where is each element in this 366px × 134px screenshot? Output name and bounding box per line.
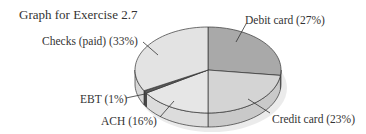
label-debit-card: Debit card (27%) [245, 15, 325, 27]
pie-slice-debit-card [208, 27, 281, 75]
label-checks-paid: Checks (paid) (33%) [42, 36, 138, 48]
label-credit-card: Credit card (23%) [272, 114, 355, 126]
label-ach: ACH (16%) [101, 116, 157, 128]
pie-slices [135, 27, 281, 113]
chart-title: Graph for Exercise 2.7 [19, 7, 137, 23]
label-ebt: EBT (1%) [80, 94, 127, 106]
